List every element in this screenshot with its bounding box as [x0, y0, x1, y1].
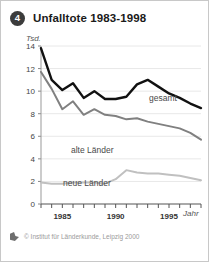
series-label-neue-länder: neue Länder	[63, 178, 111, 188]
ifl-logo-icon	[10, 232, 19, 241]
figure-header: 4 Unfalltote 1983-1998	[1, 1, 208, 35]
copyright-credit: © Institut für Länderkunde, Leipzig 2000	[24, 233, 139, 240]
y-tick-label: 2	[31, 177, 36, 186]
series-label-gesamt: gesamt	[149, 93, 178, 103]
line-chart-svg: 02468101214 198519901995 gesamtalte Länd…	[1, 41, 209, 223]
plot-area: 02468101214 198519901995 gesamtalte Länd…	[1, 41, 209, 223]
page-title: Unfalltote 1983-1998	[33, 12, 146, 24]
x-tick-label: 1995	[160, 212, 178, 221]
x-tick-label: 1990	[107, 212, 125, 221]
figure-number-badge: 4	[10, 11, 25, 26]
figure-footer: © Institut für Länderkunde, Leipzig 2000	[10, 232, 139, 241]
y-tick-label: 14	[26, 42, 35, 51]
y-tick-label: 10	[26, 87, 35, 96]
y-tick-label: 6	[31, 132, 36, 141]
chart-figure: 4 Unfalltote 1983-1998 Tsd. 02468101214 …	[0, 0, 209, 262]
x-axis-name-label: Jahr	[182, 209, 199, 218]
y-tick-label: 8	[31, 110, 36, 119]
x-axis-ticks-group: 198519901995	[41, 204, 201, 221]
series-line-alte-länder	[41, 72, 201, 140]
y-tick-label: 4	[31, 155, 36, 164]
y-tick-label: 12	[26, 65, 35, 74]
y-axis-ticks-group: 02468101214	[26, 42, 41, 209]
y-tick-label: 0	[31, 200, 36, 209]
series-label-alte-länder: alte Länder	[71, 145, 114, 155]
series-line-gesamt	[41, 48, 201, 108]
x-tick-label: 1985	[53, 212, 71, 221]
gridlines-group	[41, 46, 201, 181]
